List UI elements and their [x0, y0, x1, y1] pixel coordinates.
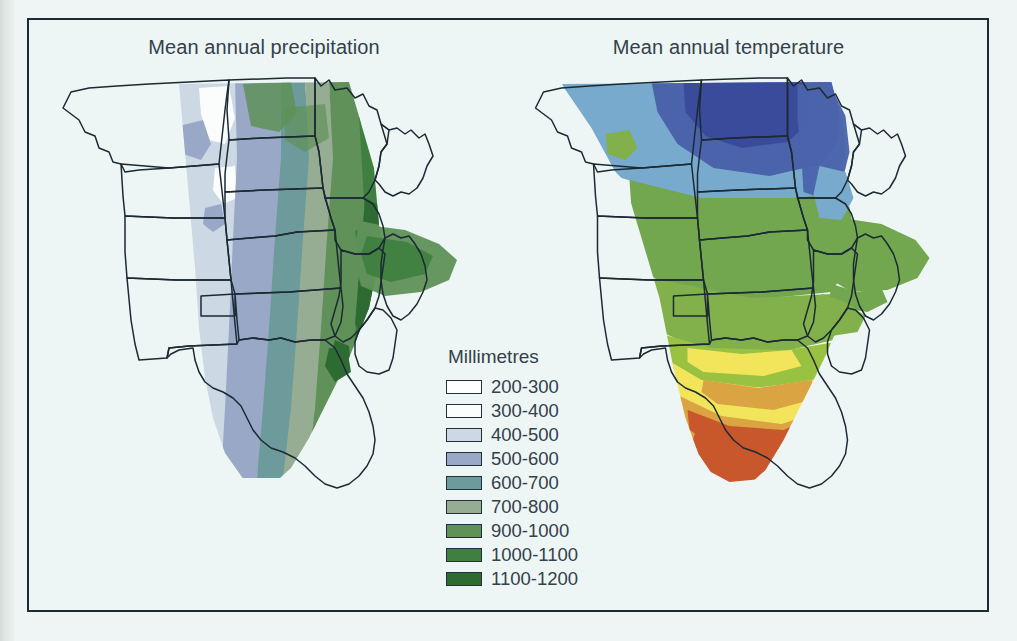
precipitation-legend-label: 900-1000	[491, 520, 569, 542]
precipitation-legend-swatch	[446, 548, 482, 562]
precipitation-legend-row: 400-500	[446, 423, 578, 447]
precipitation-legend-label: 1000-1100	[491, 544, 578, 566]
precipitation-legend-row: 1000-1100	[446, 543, 578, 567]
precipitation-legend-rows: 200-300300-400400-500500-600600-700700-8…	[446, 375, 578, 591]
precipitation-legend-label: 500-600	[491, 448, 559, 470]
precipitation-panel: Mean annual precipitation	[29, 20, 499, 610]
precipitation-legend-row: 700-800	[446, 495, 578, 519]
figure-frame: Mean annual precipitation	[27, 18, 989, 612]
precipitation-legend-title: Millimetres	[448, 346, 578, 368]
precipitation-map	[29, 48, 499, 608]
scan-edge-shading	[0, 0, 14, 641]
precipitation-legend-row: 900-1000	[446, 519, 578, 543]
precipitation-legend-swatch	[446, 524, 482, 538]
precipitation-legend-label: 700-800	[491, 496, 559, 518]
precipitation-legend-row: 500-600	[446, 447, 578, 471]
precipitation-legend: Millimetres 200-300300-400400-500500-600…	[446, 346, 578, 591]
precipitation-legend-swatch	[446, 500, 482, 514]
precipitation-legend-swatch	[446, 380, 482, 394]
precipitation-legend-row: 600-700	[446, 471, 578, 495]
precipitation-legend-label: 400-500	[491, 424, 559, 446]
precipitation-legend-row: 200-300	[446, 375, 578, 399]
precipitation-legend-swatch	[446, 452, 482, 466]
temperature-east-lobe	[816, 216, 930, 336]
precipitation-legend-swatch	[446, 404, 482, 418]
precipitation-legend-swatch	[446, 428, 482, 442]
precipitation-legend-label: 200-300	[491, 376, 559, 398]
precipitation-legend-swatch	[446, 572, 482, 586]
precipitation-legend-row: 1100-1200	[446, 567, 578, 591]
precipitation-legend-row: 300-400	[446, 399, 578, 423]
precipitation-legend-swatch	[446, 476, 482, 490]
figure-page: Mean annual precipitation	[0, 0, 1017, 641]
precipitation-legend-label: 1100-1200	[491, 568, 578, 590]
precipitation-legend-label: 300-400	[491, 400, 559, 422]
precipitation-legend-label: 600-700	[491, 472, 559, 494]
